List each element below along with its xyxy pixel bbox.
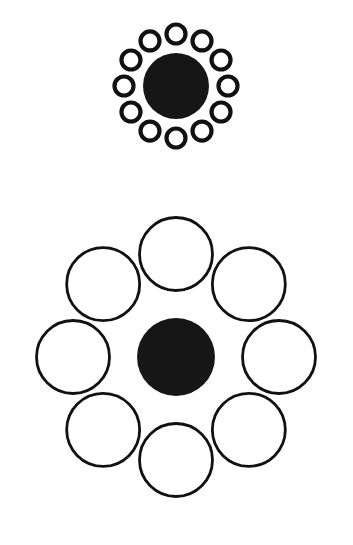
illusion-figure-canvas [0,0,353,545]
ebbinghaus-illusion-svg [0,0,353,545]
center-disk-top [143,53,209,119]
center-disk-bottom [137,318,215,396]
